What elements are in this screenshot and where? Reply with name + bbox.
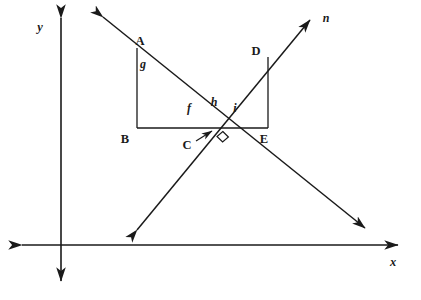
coordinate-axes: x y [22, 18, 398, 281]
point-label-A: A [135, 34, 144, 48]
y-axis-label: y [35, 20, 43, 34]
c-pointer-line [196, 131, 212, 141]
point-label-D: D [251, 44, 260, 58]
line-n-label: n [323, 11, 330, 25]
point-label-C: C [182, 138, 191, 152]
geometry-figure: x y n A B C [0, 0, 421, 300]
diagram-canvas: x y n A B C [0, 0, 421, 300]
point-labels: A B C D E [121, 34, 268, 152]
right-angle-mark [217, 132, 228, 143]
x-axis-label: x [389, 255, 396, 269]
angle-label-f: f [187, 101, 192, 115]
triangle-cde-legs [218, 57, 268, 128]
c-label-pointer [196, 131, 212, 141]
angle-label-g: g [139, 57, 146, 71]
point-label-E: E [260, 132, 268, 146]
point-label-B: B [121, 132, 129, 146]
descending-line [103, 17, 365, 228]
ascending-line-n [137, 20, 310, 230]
angle-label-h: h [211, 95, 218, 109]
triangle-abc-legs [137, 48, 218, 128]
